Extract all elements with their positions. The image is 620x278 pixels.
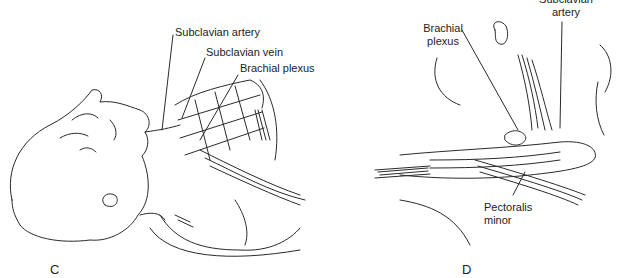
- label-subclavian-artery-d: Subclavian artery: [536, 0, 596, 19]
- label-brachial-plexus-d-line2: plexus: [418, 35, 468, 48]
- panel-letter-c: C: [50, 262, 59, 277]
- panel-letter-d: D: [462, 262, 471, 277]
- label-brachial-plexus-c: Brachial plexus: [240, 62, 315, 75]
- panel-d-leaders: [462, 22, 562, 195]
- label-pectoralis-minor-d-line2: minor: [484, 214, 532, 227]
- label-subclavian-vein-c: Subclavian vein: [206, 46, 283, 59]
- label-pectoralis-minor-d: Pectoralis minor: [484, 201, 532, 227]
- label-pectoralis-minor-d-line1: Pectoralis: [484, 201, 532, 214]
- label-brachial-plexus-d: Brachial plexus: [418, 22, 468, 48]
- label-brachial-plexus-d-line1: Brachial: [418, 22, 468, 35]
- panel-c-drawing: [10, 80, 305, 256]
- anatomy-illustration: [0, 0, 620, 278]
- label-subclavian-artery-d-line2: artery: [536, 6, 596, 19]
- label-subclavian-artery-c: Subclavian artery: [175, 26, 260, 39]
